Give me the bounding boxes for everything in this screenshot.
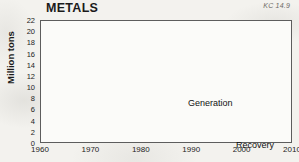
y-axis-tick: 14: [27, 60, 35, 69]
y-axis-tick: 12: [27, 71, 35, 80]
y-axis-tick: 22: [27, 16, 35, 25]
y-axis-tick: 20: [27, 27, 35, 36]
x-axis-tick: 1960: [31, 145, 49, 154]
y-axis-tick: 6: [31, 105, 35, 114]
series-label-recovery: Recovery: [236, 140, 274, 150]
x-axis-tick: 1990: [182, 145, 200, 154]
x-axis-tick: 1980: [132, 145, 150, 154]
chart-page: METALS KC 14.9 Million tons 024681012141…: [0, 0, 299, 162]
x-axis-tick: 2010: [283, 145, 299, 154]
series-label-generation: Generation: [188, 98, 233, 108]
y-axis-tick: 16: [27, 49, 35, 58]
y-axis-title: Million tons: [5, 22, 16, 94]
x-axis-tick: 1970: [81, 145, 99, 154]
y-axis-tick: 10: [27, 83, 35, 92]
page-title: METALS: [46, 1, 98, 15]
y-axis-tick: 18: [27, 38, 35, 47]
y-axis-tick-labels: 0246810121416182022: [18, 20, 38, 143]
plot-area: Generation Recovery: [40, 20, 292, 143]
y-axis-tick: 2: [31, 127, 35, 136]
y-axis-tick: 8: [31, 94, 35, 103]
plot-frame: [40, 20, 292, 143]
figure-code-annotation: KC 14.9: [263, 2, 290, 9]
y-axis-tick: 4: [31, 116, 35, 125]
